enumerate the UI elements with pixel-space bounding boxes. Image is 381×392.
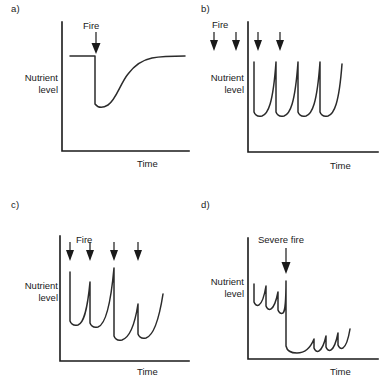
panel-a-fire-arrow [92,32,101,54]
panel-a-axes [62,22,189,151]
panel-a-letter: a) [11,3,20,14]
panel-b-x-axis-label: Time [330,160,351,171]
panel-b-letter: b) [201,3,210,14]
panel-b-axes [248,22,378,152]
panel-b-fire-label: Fire [212,19,228,30]
panel-a-curve [70,56,185,107]
panel-d-curve [254,281,350,353]
panel-a: a) Nutrient level Time Fire [0,0,190,196]
panel-c-y-axis-label: Nutrient level [6,280,58,303]
panel-c-curve [70,268,163,340]
panel-a-x-axis-label: Time [137,158,158,169]
panel-d-severe-fire-label: Severe fire [258,234,304,245]
panel-c: c) Nutrient level Time Fire [0,196,190,392]
panel-a-y-axis-label: Nutrient level [6,72,58,95]
panel-d-y-axis-label: Nutrient level [192,276,244,299]
nutrient-fire-figure: a) Nutrient level Time Fire b) Nutrient … [0,0,381,392]
panel-b-curve [254,62,342,116]
panel-b-fire-arrows [210,32,284,51]
panel-c-fire-label: Fire [76,234,92,245]
panel-d-severe-fire-arrow [282,248,291,274]
panel-d-letter: d) [201,199,210,210]
panel-b: b) Nutrient level Time Fire [190,0,380,196]
panel-c-letter: c) [11,199,19,210]
panel-d: d) Nutrient level Time Severe fire [190,196,380,392]
panel-c-x-axis-label: Time [137,366,158,377]
panel-c-axes [60,236,189,361]
panel-d-x-axis-label: Time [330,366,351,377]
panel-a-fire-label: Fire [83,20,99,31]
panel-b-y-axis-label: Nutrient level [192,72,244,95]
